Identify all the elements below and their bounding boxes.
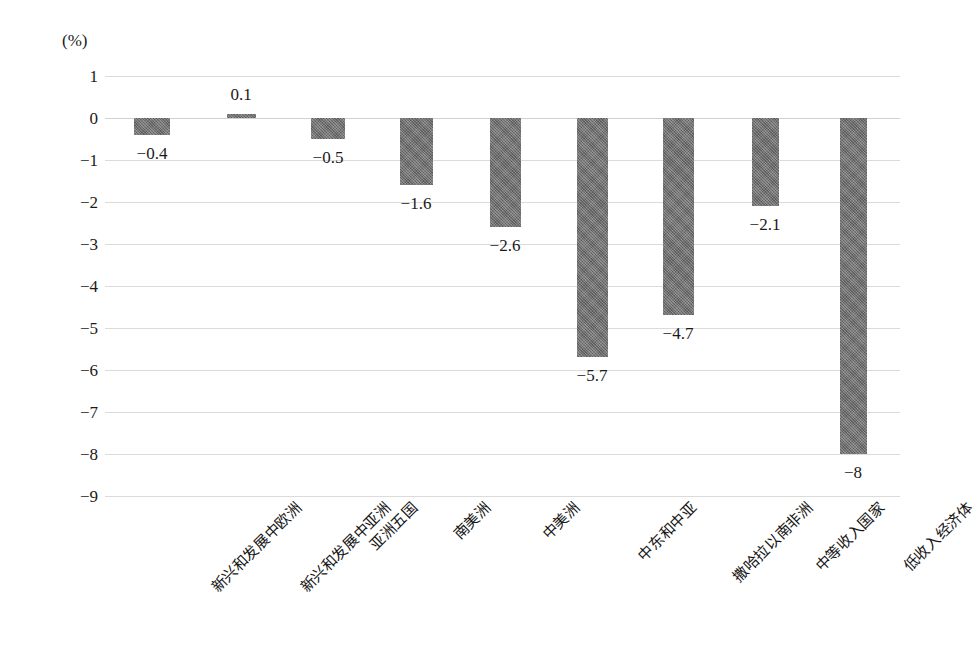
gridline xyxy=(105,454,900,455)
bar-value-label: −5.7 xyxy=(577,367,608,384)
x-axis-category-label: 南美洲 xyxy=(451,500,493,542)
bar-value-label: −2.6 xyxy=(490,237,521,254)
bar xyxy=(134,118,170,135)
bar-value-label: −2.1 xyxy=(750,216,781,233)
bar-value-label: −0.4 xyxy=(137,145,168,162)
bar-value-label: −1.6 xyxy=(401,195,432,212)
y-axis-tick-label: −7 xyxy=(52,404,98,421)
y-axis-tick-label: −4 xyxy=(52,278,98,295)
bar xyxy=(311,118,345,139)
x-axis-category-label: 中等收入国家 xyxy=(813,500,887,574)
bar xyxy=(227,114,256,118)
x-axis-category-label: 撒哈拉以南非洲 xyxy=(731,500,816,585)
x-axis-category-label: 中美洲 xyxy=(540,500,582,542)
gridline xyxy=(105,496,900,497)
bar-value-label: −0.5 xyxy=(313,149,344,166)
bar xyxy=(752,118,779,206)
gridline xyxy=(105,328,900,329)
y-axis-tick-label: 0 xyxy=(52,110,98,127)
y-axis-tick-label: −1 xyxy=(52,152,98,169)
y-axis-tick-label: −6 xyxy=(52,362,98,379)
y-axis-tick-label: −8 xyxy=(52,446,98,463)
x-axis-category-label: 中东和中亚 xyxy=(636,500,700,564)
y-axis-tick-label: −2 xyxy=(52,194,98,211)
x-axis-category-label: 新兴和发展中欧洲 xyxy=(209,500,304,595)
bar xyxy=(400,118,433,185)
y-axis-tick-label: −5 xyxy=(52,320,98,337)
gridline xyxy=(105,370,900,371)
y-axis-tick-label: 1 xyxy=(52,68,98,85)
gridline xyxy=(105,412,900,413)
x-axis-category-label: 低收入经济体 xyxy=(901,500,975,574)
bar xyxy=(577,118,608,357)
y-axis-tick-label: −3 xyxy=(52,236,98,253)
gridline xyxy=(105,76,900,77)
gridline xyxy=(105,286,900,287)
y-axis-tick-label: −9 xyxy=(52,488,98,505)
bar-value-label: −4.7 xyxy=(663,325,694,342)
bar-value-label: 0.1 xyxy=(230,86,251,103)
bar-value-label: −8 xyxy=(844,464,862,481)
bar xyxy=(490,118,521,227)
bar xyxy=(663,118,694,315)
bar xyxy=(840,118,867,454)
